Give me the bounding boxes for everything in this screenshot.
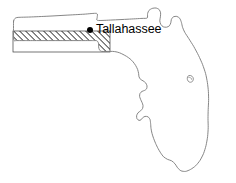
- city-marker-dot: [87, 27, 93, 33]
- city-label-tallahassee: Tallahassee: [96, 23, 161, 36]
- florida-map-figure: Tallahassee: [0, 0, 236, 183]
